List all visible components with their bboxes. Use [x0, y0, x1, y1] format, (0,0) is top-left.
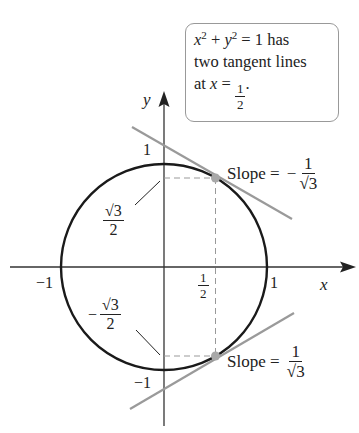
fraction-one-over-sqrt3: 1√3	[287, 343, 305, 380]
equation-note-box: x2 + y2 = 1 has two tangent lines at x =…	[185, 23, 339, 122]
minus-sign: −	[88, 306, 97, 323]
tick-label-x-half: 12	[198, 271, 209, 300]
numerator: 1	[198, 271, 209, 286]
fraction-one-over-sqrt3: 1√3	[299, 155, 317, 192]
equation-rest: = 1 has	[237, 30, 289, 49]
leader-line-sqrt3-over-2	[135, 181, 160, 205]
denominator: √3	[299, 174, 317, 192]
denominator: 2	[237, 97, 244, 111]
slope-text: Slope =	[227, 352, 284, 371]
numerator: 1	[302, 155, 315, 174]
denominator: 2	[109, 221, 117, 238]
x-axis-label: x	[320, 276, 328, 293]
tick-label-x-neg1: −1	[36, 275, 53, 291]
fraction-one-half: 12	[235, 82, 246, 111]
minus-sign: −	[287, 164, 297, 183]
leader-line-neg-sqrt3-over-2	[136, 330, 160, 355]
note-line-2: two tangent lines	[194, 51, 330, 73]
numerator: 1	[235, 82, 246, 97]
numerator: √3	[100, 297, 121, 315]
equals: =	[217, 74, 235, 93]
slope-label-upper: Slope = −1√3	[227, 155, 317, 192]
fraction-sqrt3-over-2: √32	[100, 297, 121, 332]
tangent-point-upper	[211, 174, 220, 183]
fraction-sqrt3-over-2: √32	[103, 203, 124, 238]
slope-label-lower: Slope = 1√3	[227, 343, 305, 380]
plus-sign: +	[207, 30, 225, 49]
numerator: 1	[289, 343, 302, 362]
denominator: 2	[106, 315, 114, 332]
tangent-point-lower	[211, 352, 220, 361]
tick-label-x-1: 1	[270, 275, 278, 291]
fraction-one-half: 12	[198, 271, 209, 300]
slope-text: Slope =	[227, 164, 284, 183]
note-line-equation: x2 + y2 = 1 has	[194, 29, 330, 51]
var-y: y	[224, 30, 231, 49]
y-axis-label: y	[143, 91, 151, 108]
denominator: √3	[287, 362, 305, 380]
period: .	[245, 74, 249, 93]
tick-label-y-neg1: −1	[134, 375, 151, 391]
denominator: 2	[200, 286, 207, 300]
note-line-3: at x = 12.	[194, 73, 330, 111]
tick-label-y-1: 1	[143, 142, 151, 158]
label-neg-sqrt3-over-2: −√32	[88, 297, 121, 332]
numerator: √3	[103, 203, 124, 221]
label-sqrt3-over-2: √32	[103, 203, 124, 238]
text: at	[194, 74, 210, 93]
